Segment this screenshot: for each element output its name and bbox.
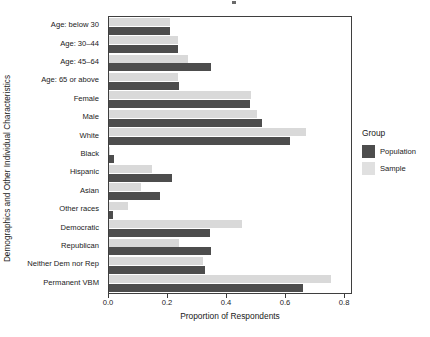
y-axis-tick-label: Other races	[11, 205, 99, 213]
bar-sample	[109, 128, 306, 136]
legend-label-sample: Sample	[380, 164, 406, 174]
plot-panel	[108, 16, 352, 294]
bar-sample	[109, 275, 331, 283]
bar-population	[109, 284, 303, 292]
x-axis-tick-label: 0.2	[147, 298, 187, 308]
y-axis-tick-label: Permanent VBM	[11, 279, 99, 287]
bar-sample	[109, 36, 178, 44]
y-axis-tick-label: Republican	[11, 242, 99, 250]
bar-population	[109, 100, 250, 108]
x-axis-tick-labels: 0.00.20.40.60.8	[0, 298, 430, 310]
legend-item-sample[interactable]: Sample	[362, 160, 428, 177]
y-axis-tick-label: White	[11, 132, 99, 140]
bar-population	[109, 155, 114, 163]
y-axis-tick-label: Age: 65 or above	[11, 76, 99, 84]
bar-chart-figure: Demographics and Other Individual Charac…	[0, 0, 430, 337]
y-axis-tick-label: Male	[11, 113, 99, 121]
legend-title: Group	[362, 128, 428, 139]
bar-population	[109, 137, 290, 145]
bar-sample	[109, 239, 179, 247]
x-axis-tick-mark	[108, 294, 109, 298]
x-axis-tick-mark	[285, 294, 286, 298]
y-axis-tick-labels: Age: below 30Age: 30–44Age: 45–64Age: 65…	[14, 16, 104, 294]
x-axis-tick-mark	[226, 294, 227, 298]
y-axis-tick-label: Democratic	[11, 224, 99, 232]
bar-sample	[109, 183, 141, 191]
y-axis-tick-label: Neither Dem nor Rep	[11, 260, 99, 268]
bar-sample	[109, 18, 170, 26]
legend-label-population: Population	[380, 147, 416, 157]
x-axis-tick-mark	[344, 294, 345, 298]
bar-population	[109, 27, 170, 35]
x-axis-tick-label: 0.0	[88, 298, 128, 308]
bar-sample	[109, 55, 188, 63]
bar-sample	[109, 202, 128, 210]
x-axis-tick-label: 0.6	[265, 298, 305, 308]
bar-population	[109, 174, 172, 182]
y-axis-tick-label: Age: 45–64	[11, 58, 99, 66]
bar-population	[109, 247, 211, 255]
legend-swatch-sample	[362, 162, 375, 175]
x-axis-tick-mark	[167, 294, 168, 298]
bar-population	[109, 211, 113, 219]
y-axis-tick-label: Black	[11, 150, 99, 158]
bar-population	[109, 119, 262, 127]
bar-population	[109, 63, 211, 71]
bar-population	[109, 266, 205, 274]
legend-swatch-population	[362, 145, 375, 158]
x-axis-tick-label: 0.8	[324, 298, 364, 308]
top-artifact-mark	[232, 1, 236, 4]
bar-sample	[109, 91, 251, 99]
bar-sample	[109, 110, 257, 118]
y-axis-tick-label: Hispanic	[11, 168, 99, 176]
bar-sample	[109, 165, 152, 173]
bar-population	[109, 229, 210, 237]
x-axis-title: Proportion of Respondents	[108, 310, 352, 322]
x-axis-tick-label: 0.4	[206, 298, 246, 308]
y-axis-tick-label: Female	[11, 95, 99, 103]
legend-item-population[interactable]: Population	[362, 143, 428, 160]
bar-population	[109, 192, 160, 200]
bar-sample	[109, 73, 178, 81]
bar-sample	[109, 220, 242, 228]
y-axis-tick-label: Asian	[11, 187, 99, 195]
bar-population	[109, 45, 178, 53]
y-axis-tick-label: Age: 30–44	[11, 40, 99, 48]
bar-sample	[109, 147, 110, 155]
y-axis-tick-label: Age: below 30	[11, 21, 99, 29]
bar-population	[109, 82, 179, 90]
legend: Group Population Sample	[362, 128, 428, 177]
bar-sample	[109, 257, 203, 265]
